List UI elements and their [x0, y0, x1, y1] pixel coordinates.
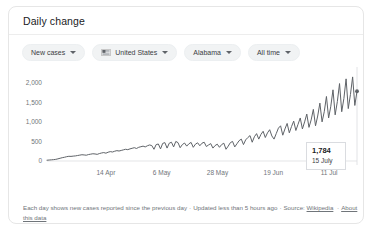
daily-change-card: Daily change New cases United States	[8, 6, 364, 224]
y-axis-tick-label: 1,000	[26, 118, 43, 125]
chevron-down-icon	[226, 51, 232, 54]
source-link[interactable]: Wikipedia	[307, 204, 334, 211]
y-axis-tick-label: 2,000	[26, 79, 43, 86]
footer-updated: Updated less than 5 hours ago	[193, 204, 277, 211]
filter-chip-metric[interactable]: New cases	[22, 44, 85, 61]
x-axis-tick-label: 28 May	[207, 169, 229, 177]
tooltip-value: 1,784	[312, 146, 340, 156]
chart-tooltip: 1,784 15 July	[306, 142, 346, 170]
filter-chip-country[interactable]: United States	[92, 44, 177, 61]
y-axis-tick-label: 1,500	[26, 99, 43, 106]
y-axis-tick-label: 0	[38, 157, 42, 164]
card-header: Daily change	[9, 7, 363, 35]
selected-point-marker	[355, 89, 359, 93]
chart-footer: Each day shows new cases reported since …	[23, 203, 363, 222]
chevron-down-icon	[70, 51, 76, 54]
filter-chip-time-range-label: All time	[257, 49, 280, 56]
footer-description: Each day shows new cases reported since …	[23, 204, 187, 211]
chevron-down-icon	[285, 51, 291, 54]
daily-change-line-chart: 05001,0001,5002,00014 Apr6 May28 May19 J…	[9, 61, 364, 196]
page-title: Daily change	[23, 15, 85, 27]
x-axis-tick-label: 14 Apr	[97, 169, 117, 177]
filter-chip-country-label: United States	[115, 49, 157, 56]
filter-chip-metric-label: New cases	[31, 49, 65, 56]
x-axis-tick-label: 6 May	[153, 169, 171, 177]
footer-source-label: Source:	[283, 204, 304, 211]
chevron-down-icon	[162, 51, 168, 54]
x-axis-tick-label: 11 Jul	[321, 169, 338, 176]
filter-chip-region-label: Alabama	[193, 49, 221, 56]
filter-chip-time-range[interactable]: All time	[248, 44, 300, 61]
tooltip-date: 15 July	[312, 156, 340, 166]
chart-area[interactable]: 05001,0001,5002,00014 Apr6 May28 May19 J…	[9, 61, 364, 196]
filter-chip-region[interactable]: Alabama	[184, 44, 241, 61]
x-axis-tick-label: 19 Jun	[264, 169, 284, 176]
y-axis-tick-label: 500	[31, 138, 42, 145]
us-flag-icon	[101, 49, 111, 56]
filter-chip-row: New cases United States Alabama	[9, 35, 363, 61]
